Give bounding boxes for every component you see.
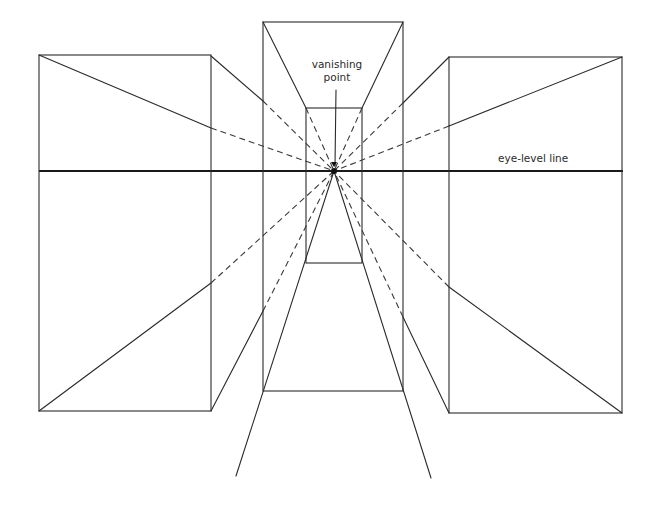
right-lower-dashed-ray [334,171,449,287]
left-box-top-edge [211,56,263,101]
left-upper-dashed-ray [211,128,334,171]
center-top-right-edge [362,22,403,108]
center-top-left-edge [263,22,306,108]
right-box-front [449,57,622,413]
center-box [236,22,431,478]
right-bottom-dashed-ray [334,171,403,317]
right-box-upper-diagonal [449,57,622,126]
left-box-lower-diagonal [39,283,211,411]
center-top-left-dashed-ray [306,108,334,171]
center-bottom-right-ray [334,171,431,478]
left-box-bottom-edge [211,311,263,411]
vanishing-point-dot [331,168,337,174]
left-box [39,55,334,411]
center-bottom-left-ray [236,171,334,476]
left-box-front [39,55,211,411]
vanishing-point-label-line2: point [306,71,368,84]
left-bottom-dashed-ray [263,171,334,311]
center-top-right-dashed-ray [334,108,362,171]
center-box-inner-frame [306,108,362,263]
right-box-lower-diagonal [449,287,622,413]
eye-level-line-label: eye-level line [498,152,568,165]
right-box-top-edge [403,57,449,103]
left-top-dashed-ray [263,101,334,171]
left-box-upper-diagonal [39,55,211,128]
vanishing-point-label-line1: vanishing [306,58,368,71]
right-box [334,57,622,413]
right-box-bottom-edge [403,317,449,413]
right-top-dashed-ray [334,103,403,171]
perspective-diagram: vanishing point eye-level line [0,0,655,510]
vanishing-point-label: vanishing point [306,58,368,84]
vanishing-point-pointer [335,90,336,166]
right-upper-dashed-ray [334,126,449,171]
